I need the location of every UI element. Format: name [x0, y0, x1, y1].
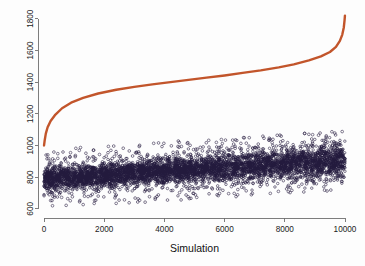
x-tick-label: 0 [42, 225, 47, 234]
x-tick-label: 6000 [215, 225, 234, 234]
y-tick-label: 800 [27, 170, 36, 184]
y-tick-label: 1600 [27, 41, 36, 60]
y-tick-label: 1400 [27, 73, 36, 92]
x-tick-label: 10000 [334, 225, 357, 234]
y-tick-label: 600 [27, 202, 36, 216]
x-tick-label: 4000 [155, 225, 174, 234]
plot-background [0, 0, 365, 266]
scatter-plot: 60080010001200140016001800 0200040006000… [0, 0, 365, 266]
x-tick-label: 8000 [276, 225, 295, 234]
x-tick-label: 2000 [95, 225, 114, 234]
y-tick-label: 1800 [27, 9, 36, 28]
y-tick-label: 1000 [27, 136, 36, 155]
x-axis-title: Simulation [170, 242, 219, 254]
figure-panel: 60080010001200140016001800 0200040006000… [0, 0, 365, 266]
y-tick-label: 1200 [27, 104, 36, 123]
